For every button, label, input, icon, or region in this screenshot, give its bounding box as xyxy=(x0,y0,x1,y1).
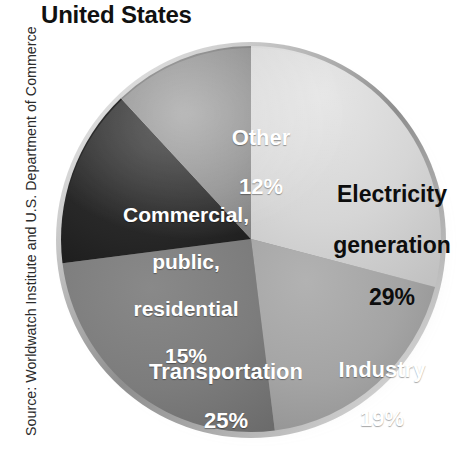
pie-slice-transportation xyxy=(63,239,275,432)
pie-svg xyxy=(52,38,452,446)
source-credit: Source: Worldwatch Institute and U.S. De… xyxy=(20,0,42,436)
page-title: United States xyxy=(41,1,192,29)
pie-chart: Electricity generation 29% Industry 19% … xyxy=(52,38,452,446)
chart-page: Source: Worldwatch Institute and U.S. De… xyxy=(0,0,459,458)
